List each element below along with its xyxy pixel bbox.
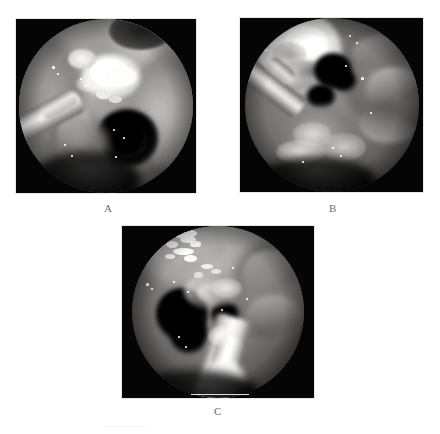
panel-a-tissue [19, 19, 193, 193]
panel-b-image [240, 18, 423, 192]
panel-a-endoscopic-field [16, 19, 196, 193]
panel-c-bottom-edge-line [191, 394, 249, 395]
panel-c-circular-field [132, 226, 304, 398]
panel-a-label: A [104, 203, 112, 214]
panel-a-image [16, 19, 196, 193]
panel-c-image [122, 226, 314, 398]
panel-b-circular-field [245, 18, 419, 192]
panel-b-label: B [329, 203, 337, 214]
panel-c-endoscopic-field [122, 226, 314, 398]
partial-caption-strip: ...................... [0, 425, 440, 434]
figure-sheet: A [0, 0, 440, 434]
partial-caption-text: ...................... [104, 425, 148, 429]
panel-a-circular-field [19, 19, 193, 193]
panel-c-tissue [132, 226, 304, 398]
panel-b-tissue [245, 18, 419, 192]
panel-c-label: C [214, 406, 222, 417]
panel-b-endoscopic-field [240, 18, 423, 192]
